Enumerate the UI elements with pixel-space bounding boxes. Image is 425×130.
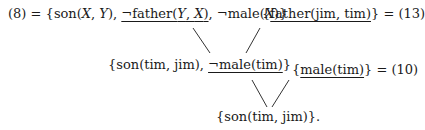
resolved-literal: male(tim) bbox=[300, 62, 364, 77]
clause-10: {male(tim)} = (10) bbox=[292, 62, 418, 78]
resolved-literal: ¬male(tim) bbox=[208, 57, 283, 72]
edge-middle-right-to-bottom bbox=[272, 80, 289, 107]
edge-middle-left-to-bottom bbox=[252, 80, 267, 107]
resolved-literal: father(jim, tim) bbox=[270, 6, 371, 21]
edge-top-left-to-middle bbox=[193, 28, 210, 53]
resolved-literal: ¬father(Y, X) bbox=[121, 6, 208, 21]
clause-13: {father(jim, tim)} = (13) bbox=[262, 6, 425, 22]
clause-8: (8) = {son(X, Y), ¬father(Y, X), ¬male(X… bbox=[8, 6, 287, 22]
final-clause: {son(tim, jim)}. bbox=[216, 109, 320, 125]
resolvent-clause: {son(tim, jim), ¬male(tim)} bbox=[108, 57, 291, 73]
edge-top-right-to-middle bbox=[246, 28, 260, 53]
